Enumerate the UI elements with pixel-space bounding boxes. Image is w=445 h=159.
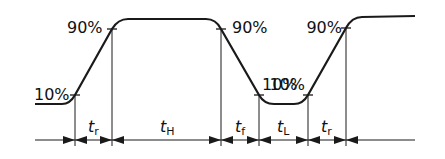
interval-label-tr-2: tr: [321, 117, 332, 138]
arrowheads: [63, 136, 358, 144]
label-10-percent-rise2: 10%: [269, 75, 305, 94]
interval-label-tr-1: tr: [88, 117, 99, 138]
interval-label-th: tH: [160, 117, 175, 138]
label-90-percent-fall: 90%: [232, 18, 268, 37]
label-90-percent-rise2: 90%: [306, 18, 342, 37]
pulse-timing-diagram: 10% 90% 90% 10% 10% 90% tr tH tf tL tr: [0, 0, 445, 159]
vertical-reference-lines: [75, 28, 346, 146]
interval-label-tf: tf: [235, 117, 246, 138]
label-10-percent-rise1: 10%: [34, 85, 70, 104]
interval-label-tl: tL: [277, 117, 290, 138]
label-90-percent-rise1: 90%: [67, 18, 103, 37]
